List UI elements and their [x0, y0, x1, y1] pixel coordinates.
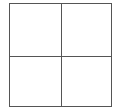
- grid-cell-top-left: [10, 4, 61, 56]
- grid-cell-top-right: [62, 4, 111, 56]
- horizontal-divider: [10, 56, 111, 57]
- two-by-two-grid: [9, 3, 112, 107]
- grid-cell-bottom-right: [62, 57, 111, 106]
- vertical-divider: [61, 4, 62, 106]
- grid-cell-bottom-left: [10, 57, 61, 106]
